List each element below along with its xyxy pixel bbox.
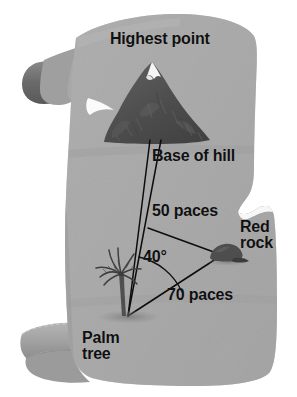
label-angle-40-degrees: 40°: [143, 249, 167, 265]
label-distance-70-paces: 70 paces: [167, 287, 233, 303]
label-palm-tree: Palm tree: [82, 330, 119, 363]
label-red-rock: Red rock: [240, 219, 273, 252]
label-highest-point: Highest point: [110, 31, 210, 47]
map-canvas: [0, 0, 297, 397]
label-base-of-hill: Base of hill: [152, 148, 235, 164]
map-figure: Highest point Base of hill 50 paces Red …: [0, 0, 297, 397]
label-distance-50-paces: 50 paces: [152, 203, 218, 219]
